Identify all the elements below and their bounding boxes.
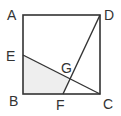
geometry-diagram: A D E G B F C [0, 0, 121, 116]
label-g: G [61, 60, 72, 76]
label-f: F [56, 97, 65, 113]
label-e: E [6, 48, 15, 64]
label-b: B [9, 93, 18, 109]
segment-df [63, 15, 100, 94]
label-d: D [104, 7, 114, 23]
label-a: A [7, 7, 17, 23]
diagram-svg: A D E G B F C [0, 0, 121, 116]
label-c: C [103, 96, 113, 112]
